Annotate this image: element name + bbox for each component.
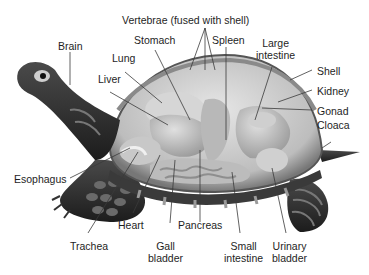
label-small-intestine: Small intestine: [224, 240, 263, 264]
label-cloaca: Cloaca: [317, 119, 350, 131]
label-gonad: Gonad: [317, 105, 349, 117]
label-shell: Shell: [317, 65, 340, 77]
label-pancreas: Pancreas: [178, 219, 222, 231]
label-large-intestine: Large intestine: [256, 37, 295, 61]
label-liver: Liver: [98, 73, 121, 85]
turtle-illustration: [0, 0, 369, 275]
label-trachea: Trachea: [70, 240, 108, 252]
turtle-anatomy-diagram: Vertebrae (fused with shell) Brain Stoma…: [0, 0, 369, 275]
label-vertebrae: Vertebrae (fused with shell): [122, 14, 249, 26]
label-esophagus: Esophagus: [14, 173, 67, 185]
label-heart: Heart: [118, 219, 144, 231]
label-kidney: Kidney: [317, 85, 349, 97]
label-spleen: Spleen: [212, 34, 245, 46]
label-urinary-bladder: Urinary bladder: [272, 240, 307, 264]
label-brain: Brain: [58, 40, 83, 52]
tail: [318, 150, 360, 162]
label-gall-bladder: Gall bladder: [148, 240, 183, 264]
label-stomach: Stomach: [134, 34, 175, 46]
label-lung: Lung: [112, 52, 135, 64]
